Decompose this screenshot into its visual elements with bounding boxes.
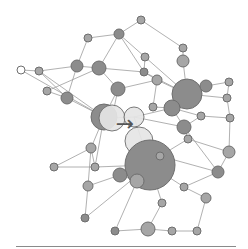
graph-node bbox=[92, 61, 106, 75]
graph-node bbox=[140, 68, 148, 76]
graph-node bbox=[83, 181, 93, 191]
graph-node bbox=[130, 174, 144, 188]
graph-node bbox=[223, 146, 235, 158]
graph-node bbox=[156, 152, 164, 160]
graph-node bbox=[84, 34, 92, 42]
graph-node bbox=[180, 183, 188, 191]
graph-node bbox=[149, 103, 157, 111]
graph-node bbox=[91, 163, 99, 171]
graph-node bbox=[212, 166, 224, 178]
graph-edge bbox=[115, 181, 137, 231]
graph-node bbox=[225, 78, 233, 86]
arrow-right-icon: → bbox=[116, 111, 134, 136]
graph-node bbox=[61, 92, 73, 104]
network-graph: → bbox=[0, 0, 248, 249]
graph-node bbox=[113, 168, 127, 182]
graph-node bbox=[177, 120, 191, 134]
baseline-divider bbox=[16, 246, 236, 247]
graph-node bbox=[17, 66, 25, 74]
graph-node bbox=[197, 112, 205, 120]
graph-node bbox=[35, 67, 43, 75]
graph-node bbox=[86, 143, 96, 153]
graph-node bbox=[223, 94, 231, 102]
graph-node bbox=[158, 199, 166, 207]
graph-node bbox=[226, 114, 234, 122]
graph-node bbox=[111, 227, 119, 235]
graph-node bbox=[71, 60, 83, 72]
graph-edge bbox=[141, 20, 183, 48]
graph-node bbox=[179, 44, 187, 52]
graph-edge bbox=[54, 148, 91, 167]
graph-node bbox=[168, 227, 176, 235]
graph-node bbox=[177, 55, 189, 67]
graph-node bbox=[43, 87, 51, 95]
graph-node bbox=[50, 163, 58, 171]
graph-edge bbox=[184, 127, 218, 172]
graph-node bbox=[141, 222, 155, 236]
graph-node bbox=[114, 29, 124, 39]
graph-node bbox=[201, 193, 211, 203]
graph-node bbox=[141, 53, 149, 61]
graph-node bbox=[164, 100, 180, 116]
graph-node bbox=[184, 135, 192, 143]
graph-node bbox=[152, 75, 162, 85]
graph-node bbox=[111, 82, 125, 96]
graph-node bbox=[200, 80, 212, 92]
graph-node bbox=[137, 16, 145, 24]
graph-node bbox=[193, 227, 201, 235]
graph-node bbox=[81, 214, 89, 222]
